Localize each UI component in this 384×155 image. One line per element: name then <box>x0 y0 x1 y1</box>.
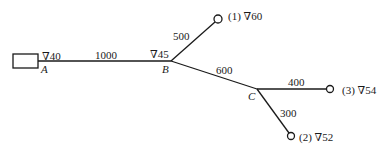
outlet-1-node <box>214 15 222 23</box>
pipe-b-c-length: 600 <box>216 64 233 76</box>
outlet-2-label: (2) ∇52 <box>299 131 333 144</box>
pipe-b-c <box>171 61 257 89</box>
junction-b-label: B <box>162 63 169 75</box>
outlet-3-node <box>327 86 334 93</box>
junction-b-elevation: ∇45 <box>150 48 169 60</box>
pipe-b-1-length: 500 <box>173 30 190 42</box>
outlet-1-label: (1) ∇60 <box>228 10 263 23</box>
outlet-2-node <box>288 133 295 140</box>
reservoir-label: A <box>40 63 48 75</box>
reservoir-elevation: ∇40 <box>42 50 61 62</box>
outlet-3-label: (3) ∇54 <box>342 84 377 97</box>
pipe-c-2-length: 300 <box>280 107 297 119</box>
junction-c-label: C <box>248 90 256 102</box>
pipe-network-diagram: ∇40 A 1000 500 600 400 300 ∇45 B C (1) ∇… <box>0 0 384 155</box>
reservoir-box <box>13 54 38 68</box>
pipe-c-3-length: 400 <box>288 76 305 88</box>
pipe-a-b-length: 1000 <box>95 49 118 61</box>
